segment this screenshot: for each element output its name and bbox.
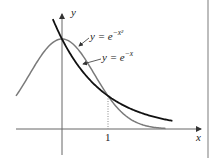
chart-plot: y x 1 y = e−x² y = e−x bbox=[0, 0, 210, 158]
tick-label-1: 1 bbox=[105, 131, 111, 143]
gauss-label-base: y = e bbox=[89, 30, 113, 42]
exp-label: y = e−x bbox=[101, 49, 134, 63]
gauss-label: y = e−x² bbox=[89, 28, 124, 42]
x-axis-label: x bbox=[195, 131, 201, 143]
exp-label-base: y = e bbox=[101, 51, 125, 63]
gaussian-curve bbox=[16, 39, 166, 128]
exp-label-exponent: −x bbox=[125, 49, 134, 58]
gauss-label-exponent: −x² bbox=[113, 28, 124, 37]
gauss-label-arrow bbox=[79, 38, 89, 46]
y-axis-label: y bbox=[70, 6, 76, 18]
right-border bbox=[207, 0, 209, 158]
